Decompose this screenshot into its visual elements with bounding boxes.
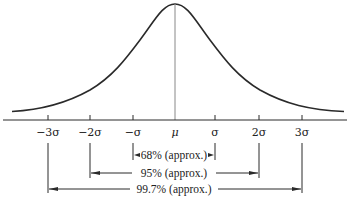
interval-95: 95% (approx.) — [91, 167, 258, 180]
arrow-left-icon — [134, 153, 140, 157]
interval-95-label: 95% (approx.) — [141, 167, 208, 180]
tick-label-minus-sigma: −σ — [125, 126, 142, 139]
interval-99-7-label: 99.7% (approx.) — [136, 183, 211, 196]
normal-distribution-diagram: −3σ −2σ −σ μ σ 2σ 3σ 68% (approx.) 95% (… — [0, 0, 352, 198]
interval-68: 68% (approx.) — [134, 149, 214, 162]
arrow-right-icon — [292, 187, 301, 191]
arrow-left-icon — [49, 187, 58, 191]
tick-label-3-sigma: 3σ — [295, 126, 310, 139]
bell-curve — [12, 4, 344, 112]
tick-label-sigma: σ — [211, 126, 219, 139]
arrow-right-icon — [208, 153, 214, 157]
arrow-right-icon — [249, 171, 258, 175]
arrow-left-icon — [91, 171, 100, 175]
interval-99-7: 99.7% (approx.) — [49, 183, 301, 196]
tick-label-minus-2-sigma: −2σ — [78, 126, 102, 139]
tick-label-minus-3-sigma: −3σ — [36, 126, 60, 139]
tick-label-mu: μ — [171, 126, 178, 139]
tick-label-2-sigma: 2σ — [252, 126, 267, 139]
interval-68-label: 68% (approx.) — [141, 149, 208, 162]
